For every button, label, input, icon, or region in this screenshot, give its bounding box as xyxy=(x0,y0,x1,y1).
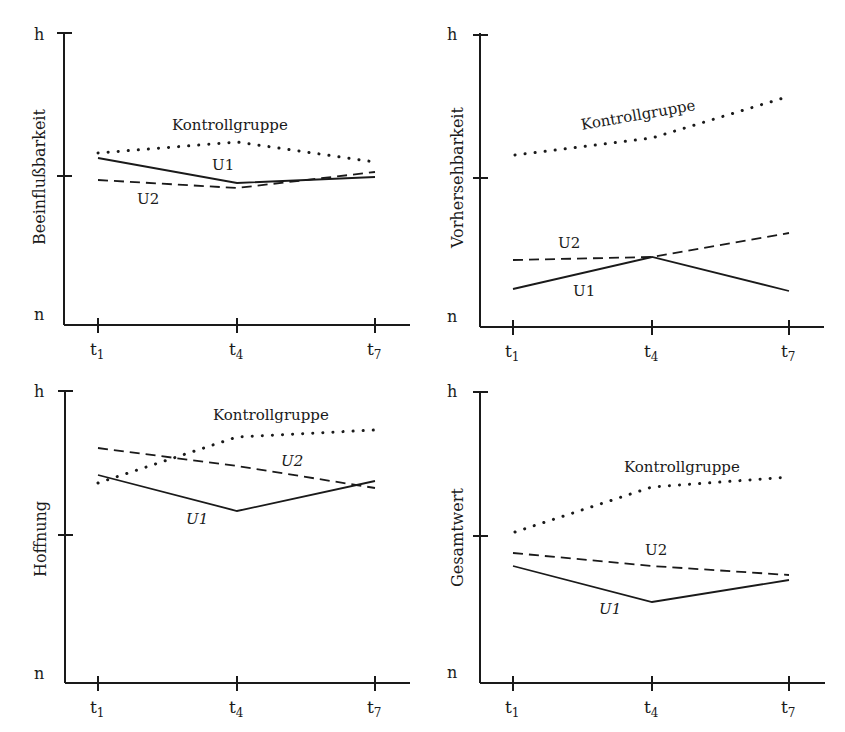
y-bottom-label: n xyxy=(447,307,457,326)
label-u1: U1 xyxy=(573,282,595,300)
y-top-label: h xyxy=(34,25,44,44)
panel-vorhersehbarkeit: h n Vorhersehbarkeit t1 t4 t7 Kontrollgr… xyxy=(447,25,824,364)
label-u1: U1 xyxy=(599,600,621,618)
y-top-label: h xyxy=(447,25,457,44)
label-kontrollgruppe: Kontrollgruppe xyxy=(580,96,697,134)
y-axis-label: Gesamtwert xyxy=(448,488,467,587)
series-u1 xyxy=(98,158,375,183)
label-u2: U2 xyxy=(137,190,159,208)
y-top-label: h xyxy=(447,382,457,401)
x-tick-label-t7: t7 xyxy=(781,697,795,720)
y-top-label: h xyxy=(34,382,44,401)
label-u2: U2 xyxy=(645,541,667,559)
panel-beeinflussbarkeit: h n Beeinflußbarkeit t1 t4 t7 Kontrollgr… xyxy=(30,25,410,362)
label-kontrollgruppe: Kontrollgruppe xyxy=(624,458,740,476)
x-tick-label-t7: t7 xyxy=(367,697,381,720)
series-u2 xyxy=(98,172,375,188)
x-tick-label-t4: t4 xyxy=(644,341,659,364)
series-u1 xyxy=(513,566,789,602)
panel-gesamtwert: h n Gesamtwert t1 t4 t7 Kontrollgruppe U… xyxy=(447,382,825,720)
label-kontrollgruppe: Kontrollgruppe xyxy=(213,406,329,424)
x-tick-label-t1: t1 xyxy=(505,341,519,364)
series-kontrollgruppe xyxy=(98,430,375,483)
label-u1: U1 xyxy=(212,156,234,174)
label-kontrollgruppe: Kontrollgruppe xyxy=(172,116,288,134)
label-u1: U1 xyxy=(186,510,208,528)
series-kontrollgruppe xyxy=(98,142,375,162)
series-u1 xyxy=(98,475,375,511)
x-tick-label-t7: t7 xyxy=(367,339,381,362)
series-u1 xyxy=(513,257,789,291)
series-u2 xyxy=(513,233,789,260)
x-tick-label-t1: t1 xyxy=(505,697,519,720)
x-tick-label-t1: t1 xyxy=(90,697,104,720)
label-u2: U2 xyxy=(281,452,303,470)
y-bottom-label: n xyxy=(34,664,44,683)
y-axis-label: Hoffnung xyxy=(31,501,50,577)
x-tick-label-t4: t4 xyxy=(644,697,659,720)
y-axis-label: Vorhersehbarkeit xyxy=(448,107,467,249)
x-tick-label-t1: t1 xyxy=(90,339,104,362)
figure-2x2-line-charts: h n Beeinflußbarkeit t1 t4 t7 Kontrollgr… xyxy=(0,0,845,732)
series-kontrollgruppe xyxy=(515,477,790,532)
x-tick-label-t7: t7 xyxy=(781,341,795,364)
y-bottom-label: n xyxy=(34,305,44,324)
panel-hoffnung: h n Hoffnung t1 t4 t7 Kontrollgruppe U2 … xyxy=(31,382,410,720)
y-bottom-label: n xyxy=(447,663,457,682)
y-axis-label: Beeinflußbarkeit xyxy=(30,109,49,245)
x-tick-label-t4: t4 xyxy=(229,339,244,362)
series-u2 xyxy=(98,448,375,488)
label-u2: U2 xyxy=(558,234,580,252)
x-tick-label-t4: t4 xyxy=(229,697,244,720)
